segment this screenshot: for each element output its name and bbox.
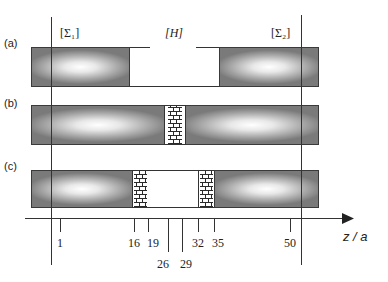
tick-29 bbox=[182, 218, 183, 252]
tick-label-29: 29 bbox=[180, 257, 192, 272]
row-c-well bbox=[148, 170, 199, 208]
row-a-right-lead bbox=[219, 47, 319, 87]
tick-50 bbox=[290, 218, 291, 232]
tick-label-1: 1 bbox=[57, 236, 63, 251]
tick-label-35: 35 bbox=[212, 236, 224, 251]
row-label-c: (c) bbox=[4, 160, 17, 172]
row-c-right-lead bbox=[214, 170, 319, 208]
sigma2-label: [Σ₂] bbox=[271, 27, 290, 39]
tick-19 bbox=[148, 218, 149, 232]
row-b-right-region bbox=[185, 105, 319, 145]
tick-26 bbox=[168, 218, 169, 252]
tick-35 bbox=[214, 218, 215, 232]
heterostructure-label: [H] bbox=[165, 27, 183, 39]
brick-pattern-icon bbox=[200, 171, 213, 207]
row-b-barrier bbox=[164, 105, 186, 145]
tick-16 bbox=[134, 218, 135, 232]
row-c-left-lead bbox=[31, 170, 133, 208]
tick-1 bbox=[60, 218, 61, 232]
row-label-b: (b) bbox=[4, 97, 17, 109]
left-boundary-line bbox=[51, 17, 52, 265]
axis-label: z / a bbox=[343, 231, 368, 243]
row-c-barrier-right bbox=[198, 170, 215, 208]
sigma1-label: [Σ₁] bbox=[60, 27, 79, 39]
row-c-barrier-left bbox=[132, 170, 149, 208]
axis-arrow-icon bbox=[342, 213, 354, 224]
row-a-left-lead bbox=[31, 47, 130, 87]
row-a-top-line-left bbox=[130, 47, 150, 48]
tick-label-32: 32 bbox=[192, 236, 204, 251]
row-label-a: (a) bbox=[4, 37, 17, 49]
tick-label-19: 19 bbox=[147, 236, 159, 251]
tick-label-16: 16 bbox=[128, 236, 140, 251]
row-a-bottom-line bbox=[130, 86, 219, 87]
tick-label-26: 26 bbox=[157, 257, 169, 272]
z-axis bbox=[25, 218, 347, 219]
tick-label-50: 50 bbox=[284, 236, 296, 251]
row-a-top-line-right bbox=[196, 47, 219, 48]
tick-32 bbox=[198, 218, 199, 232]
brick-pattern-icon bbox=[134, 171, 147, 207]
brick-pattern-icon bbox=[168, 106, 182, 144]
right-boundary-line bbox=[301, 15, 302, 265]
